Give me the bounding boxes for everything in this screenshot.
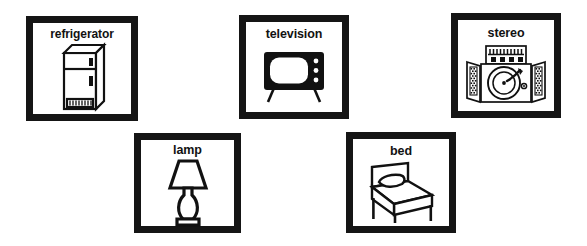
flashcard-art-refrigerator: [33, 40, 131, 114]
flashcard-label-refrigerator: refrigerator: [50, 28, 114, 40]
lamp-icon: [161, 157, 215, 229]
flashcard-label-television: television: [266, 28, 323, 41]
flashcard-sheet: refrigerator: [0, 0, 587, 246]
flashcard-art-bed: [353, 158, 449, 227]
stereo-turntable: [488, 67, 520, 99]
television-icon: [260, 48, 328, 104]
bed-icon: [364, 159, 438, 225]
flashcard-refrigerator[interactable]: refrigerator: [26, 16, 138, 121]
flashcard-art-lamp: [141, 157, 234, 229]
flashcard-lamp[interactable]: lamp: [134, 133, 241, 233]
refrigerator-icon: [53, 41, 111, 113]
television-knobs: [314, 59, 319, 83]
stereo-icon: [464, 44, 548, 106]
flashcard-art-stereo: [458, 40, 554, 112]
flashcard-bed[interactable]: bed: [346, 132, 456, 233]
flashcard-label-lamp: lamp: [173, 144, 202, 157]
flashcard-label-bed: bed: [390, 145, 412, 158]
flashcard-stereo[interactable]: stereo: [451, 13, 561, 118]
flashcard-art-television: [246, 41, 342, 113]
flashcard-label-stereo: stereo: [488, 27, 525, 40]
flashcard-television[interactable]: television: [239, 15, 349, 119]
